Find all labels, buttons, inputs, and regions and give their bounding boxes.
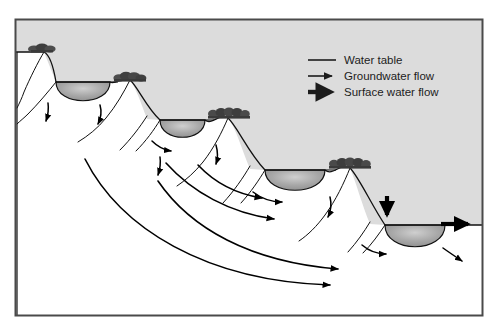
legend-label-groundwater-flow: Groundwater flow	[344, 70, 435, 82]
hydrology-cross-section-diagram: Water table Groundwater flow Surface wat…	[0, 0, 498, 334]
legend-label-surface-water-flow: Surface water flow	[344, 86, 439, 98]
legend-label-water-table: Water table	[344, 54, 402, 66]
figure-root: Water table Groundwater flow Surface wat…	[0, 0, 498, 334]
